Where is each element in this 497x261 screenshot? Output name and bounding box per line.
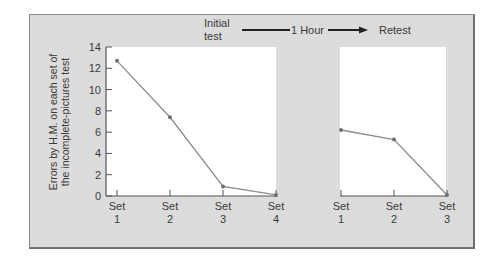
y-tick-label: 14 <box>89 41 101 53</box>
y-axis-label-line1: Errors by H.M. on each set of <box>47 54 59 191</box>
data-point <box>392 138 396 142</box>
y-tick-label: 2 <box>95 169 101 181</box>
data-point <box>115 59 119 63</box>
initial-plot-area <box>106 47 276 196</box>
x-tick-label-number: 1 <box>114 213 120 225</box>
y-tick-label: 8 <box>95 105 101 117</box>
x-tick-label: Set <box>162 200 179 212</box>
retest-plot-area <box>340 47 446 196</box>
y-tick-label: 0 <box>95 190 101 202</box>
x-tick-label: Set <box>215 200 232 212</box>
data-point <box>168 115 172 119</box>
x-tick-label-number: 4 <box>273 213 279 225</box>
x-tick-label: Set <box>386 200 403 212</box>
x-tick-label-number: 2 <box>167 213 173 225</box>
retest-label: Retest <box>379 24 411 36</box>
x-tick-label: Set <box>333 200 350 212</box>
arrow-right-icon <box>359 27 368 34</box>
data-point <box>274 193 278 197</box>
data-point <box>221 184 225 188</box>
x-tick-label-number: 1 <box>338 213 344 225</box>
data-point <box>445 193 449 197</box>
chart-header: Initial test 1 Hour Retest <box>204 17 411 42</box>
x-tick-label: Set <box>439 200 456 212</box>
initial-test-label-line2: test <box>204 30 222 42</box>
y-tick-label: 6 <box>95 126 101 138</box>
x-tick-label: Set <box>109 200 126 212</box>
y-tick-label: 10 <box>89 84 101 96</box>
errors-chart: Initial test 1 Hour Retest Errors by H.M… <box>0 0 497 261</box>
data-point <box>339 128 343 132</box>
y-axis-label: Errors by H.M. on each set of the incomp… <box>47 54 71 191</box>
x-tick-label-number: 3 <box>444 213 450 225</box>
y-tick-label: 12 <box>89 62 101 74</box>
initial-test-label-line1: Initial <box>204 17 230 29</box>
x-tick-label-number: 2 <box>391 213 397 225</box>
y-axis-label-line2: the incomplete-pictures test <box>59 58 71 186</box>
x-tick-label-number: 3 <box>220 213 226 225</box>
y-tick-label: 4 <box>95 147 101 159</box>
interval-label: 1 Hour <box>291 24 324 36</box>
x-tick-label: Set <box>268 200 285 212</box>
